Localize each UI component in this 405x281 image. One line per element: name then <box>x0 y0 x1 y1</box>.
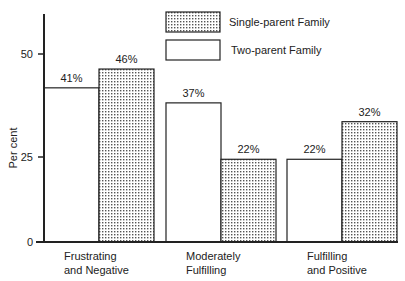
y-tick-label: 25 <box>21 151 33 163</box>
legend-label-single-parent: Single-parent Family <box>229 16 330 28</box>
legend: Single-parent Family Two-parent Family <box>166 12 330 60</box>
bar-value-label: 41% <box>60 72 82 84</box>
category-label: Moderately <box>186 250 241 262</box>
y-tick-label: 0 <box>27 236 33 248</box>
bar-two-parent-0 <box>44 88 99 242</box>
category-label: Fulfilling <box>186 264 226 276</box>
legend-label-two-parent: Two-parent Family <box>231 44 322 56</box>
category-labels: Frustratingand NegativeModeratelyFulfill… <box>64 250 367 276</box>
bar-value-label: 37% <box>182 87 204 99</box>
bar-two-parent-1 <box>166 103 221 242</box>
legend-swatch-single-parent <box>166 12 220 32</box>
bar-value-label: 22% <box>237 143 259 155</box>
bar-single-parent-1 <box>221 159 276 242</box>
bar-value-label: 22% <box>303 143 325 155</box>
category-label: Frustrating <box>64 250 117 262</box>
category-label: and Positive <box>307 264 367 276</box>
category-label: Fulfilling <box>307 250 347 262</box>
legend-swatch-two-parent <box>166 40 220 60</box>
bar-chart: 41%46%37%22%22%32% 02550 Per cent Frustr… <box>0 0 405 281</box>
y-ticks: 02550 <box>21 48 44 248</box>
bar-value-label: 32% <box>358 106 380 118</box>
y-axis-label: Per cent <box>7 128 19 169</box>
bar-value-label: 46% <box>115 53 137 65</box>
bar-single-parent-2 <box>342 122 397 242</box>
bar-single-parent-0 <box>99 69 154 242</box>
y-tick-label: 50 <box>21 48 33 60</box>
bars-group <box>44 69 397 242</box>
category-label: and Negative <box>64 264 129 276</box>
bar-two-parent-2 <box>287 159 342 242</box>
